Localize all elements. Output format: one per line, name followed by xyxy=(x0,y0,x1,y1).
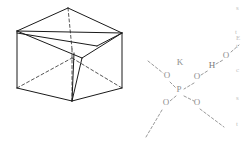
edge-text-6: s xyxy=(236,94,239,102)
atom-label-o-upper-right: O xyxy=(194,71,201,81)
figure-root: K O O P O O H O s t E t c s t xyxy=(0,0,241,145)
figure-canvas: K O O P O O H O s t E t c s t xyxy=(0,0,241,145)
edge-text-1: s xyxy=(236,4,239,12)
edge-text-4: t xyxy=(236,42,238,50)
atom-label-h: H xyxy=(209,60,216,70)
atom-label-o-upper-left: O xyxy=(164,70,171,80)
atom-label-k: K xyxy=(177,57,184,67)
atom-label-p: P xyxy=(176,84,181,94)
edge-text-7: t xyxy=(236,120,238,128)
edge-text-3: E xyxy=(236,34,240,42)
atom-label-o-hydroxyl: O xyxy=(223,50,230,60)
edge-text-5: c xyxy=(236,66,239,74)
atom-label-o-lower-right: O xyxy=(194,97,201,107)
atom-label-o-lower-left: O xyxy=(163,97,170,107)
